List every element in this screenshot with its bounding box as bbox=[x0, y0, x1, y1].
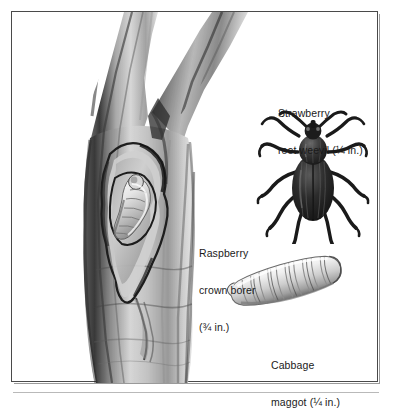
frame-shadow-right bbox=[379, 14, 380, 383]
label-line: Cabbage bbox=[271, 359, 340, 371]
label-line: Raspberry bbox=[199, 247, 256, 259]
label-line: crown borer bbox=[199, 284, 256, 296]
frame-shadow-bottom bbox=[14, 383, 380, 384]
illustration-artwork bbox=[12, 12, 379, 383]
label-line: (¾ in.) bbox=[199, 321, 256, 333]
illustration-frame: Strawberry root weevil (¼ in.) Raspberry… bbox=[11, 11, 378, 382]
label-strawberry-root-weevil: Strawberry root weevil (¼ in.) bbox=[278, 82, 363, 181]
label-raspberry-crown-borer: Raspberry crown borer (¾ in.) bbox=[199, 222, 256, 358]
label-cabbage-maggot: Cabbage maggot (¼ in.) bbox=[271, 334, 340, 412]
label-line: maggot (¼ in.) bbox=[271, 396, 340, 408]
label-line: root weevil (¼ in.) bbox=[278, 144, 363, 156]
label-line: Strawberry bbox=[278, 107, 363, 119]
